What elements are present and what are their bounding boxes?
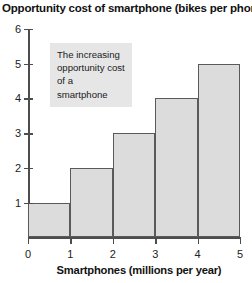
y-tick-label-1: 1 — [15, 197, 21, 209]
x-tick-4 — [198, 237, 199, 244]
y-tick-1 — [24, 203, 33, 204]
x-tick-2 — [113, 237, 114, 244]
bar-3-4 — [155, 98, 197, 237]
x-axis-line — [28, 237, 240, 239]
annotation-textbox: The increasing opportunity cost of a sma… — [50, 43, 132, 107]
x-tick-label-5: 5 — [237, 248, 243, 260]
x-tick-3 — [155, 237, 156, 244]
y-tick-5 — [24, 64, 33, 65]
y-tick-6 — [24, 29, 33, 30]
x-tick-5 — [240, 237, 241, 244]
annotation-line-1: The increasing — [57, 48, 126, 61]
y-tick-label-4: 4 — [15, 92, 21, 104]
y-tick-label-2: 2 — [15, 162, 21, 174]
x-tick-label-2: 2 — [110, 248, 116, 260]
chart-title: Opportunity cost of smartphone (bikes pe… — [2, 2, 252, 14]
annotation-line-3: of a smartphone — [57, 74, 126, 100]
y-tick-label-3: 3 — [15, 127, 21, 139]
x-tick-label-3: 3 — [152, 248, 158, 260]
y-tick-4 — [24, 98, 33, 99]
x-tick-label-4: 4 — [195, 248, 201, 260]
bar-4-5 — [198, 64, 240, 238]
y-tick-label-6: 6 — [15, 23, 21, 35]
y-tick-2 — [24, 168, 33, 169]
bar-1-2 — [70, 168, 112, 237]
bar-0-1 — [28, 203, 70, 238]
bar-2-3 — [113, 133, 155, 237]
x-tick-label-0: 0 — [25, 248, 31, 260]
x-axis-title: Smartphones (millions per year) — [0, 264, 250, 276]
x-tick-1 — [70, 237, 71, 244]
annotation-line-2: opportunity cost — [57, 61, 126, 74]
x-tick-0 — [28, 237, 29, 244]
y-tick-3 — [24, 133, 33, 134]
y-tick-label-5: 5 — [15, 58, 21, 70]
chart-container: Opportunity cost of smartphone (bikes pe… — [0, 0, 252, 283]
x-tick-label-1: 1 — [67, 248, 73, 260]
